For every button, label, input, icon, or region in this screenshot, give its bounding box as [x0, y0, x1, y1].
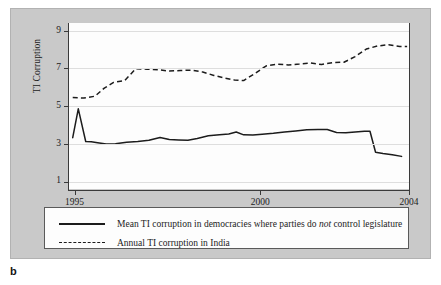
y-tick-label-1: 1	[39, 175, 61, 185]
axis-line-left	[68, 23, 69, 191]
x-tick-mark-2000	[260, 191, 261, 195]
y-tick-label-9: 9	[39, 25, 61, 35]
y-tick-label-3: 3	[39, 138, 61, 148]
gridline-y-9	[69, 31, 409, 32]
axis-line-right	[409, 23, 410, 191]
y-tick-label-7: 7	[39, 62, 61, 72]
plot-area	[69, 23, 409, 189]
legend-swatch-dashed	[59, 238, 105, 248]
axis-line-bottom	[68, 190, 410, 191]
legend-item-india: Annual TI corruption in India	[45, 234, 408, 252]
legend-line-sample-dashed	[59, 242, 105, 243]
x-tick-label-2000: 2000	[237, 197, 283, 207]
y-tick-mark-1	[64, 182, 68, 183]
y-tick-mark-5	[64, 106, 68, 107]
series-line-india	[73, 45, 407, 98]
gridline-y-7	[69, 68, 409, 69]
gridline-y-5	[69, 106, 409, 107]
series-line-mean-democracies	[73, 109, 402, 157]
legend: Mean TI corruption in democracies where …	[44, 207, 409, 249]
legend-item-mean-democracies: Mean TI corruption in democracies where …	[45, 215, 408, 233]
panel-letter: b	[10, 265, 17, 277]
gridline-y-3	[69, 144, 409, 145]
gridline-y-1	[69, 182, 409, 183]
figure-plate: TI Corruption 13579 199520002004 Mean TI…	[10, 8, 431, 259]
x-tick-label-1995: 1995	[52, 197, 98, 207]
y-tick-label-5: 5	[39, 100, 61, 110]
legend-swatch-solid	[59, 219, 105, 229]
y-tick-mark-7	[64, 68, 68, 69]
x-tick-mark-2004	[409, 191, 410, 195]
y-tick-mark-3	[64, 144, 68, 145]
x-tick-label-2004: 2004	[386, 197, 432, 207]
legend-label: Annual TI corruption in India	[117, 238, 230, 248]
y-tick-mark-9	[64, 31, 68, 32]
legend-line-sample-solid	[59, 223, 105, 225]
x-tick-mark-1995	[75, 191, 76, 195]
legend-label-emphasis: not	[319, 219, 331, 229]
legend-label: Mean TI corruption in democracies where …	[117, 219, 402, 229]
